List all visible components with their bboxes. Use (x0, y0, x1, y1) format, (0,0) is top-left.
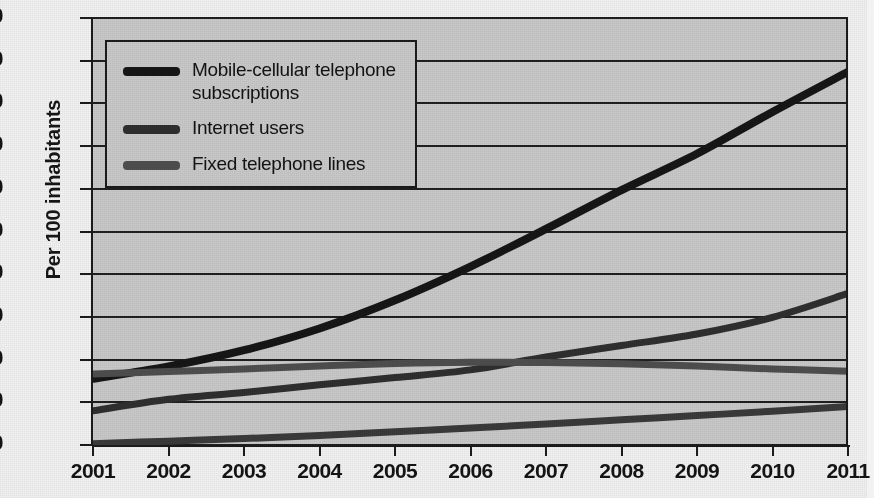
legend-item[interactable]: Internet users (123, 116, 304, 139)
y-tick-label: 60 (0, 174, 3, 200)
x-tick-mark (394, 445, 396, 456)
x-axis-line (93, 445, 850, 447)
x-tick-mark (168, 445, 170, 456)
x-tick-mark (243, 445, 245, 456)
y-tick-mark (80, 316, 93, 318)
chart-legend: Mobile-cellular telephone subscriptionsI… (105, 40, 417, 188)
y-tick-mark (80, 188, 93, 190)
y-tick-label: 80 (0, 88, 3, 114)
x-tick-mark (545, 445, 547, 456)
y-tick-mark (80, 401, 93, 403)
y-tick-label: 70 (0, 131, 3, 157)
y-tick-label: 40 (0, 259, 3, 285)
x-tick-mark (319, 445, 321, 456)
y-tick-label: 10 (0, 387, 3, 413)
legend-swatch-icon (123, 125, 180, 134)
x-tick-mark (696, 445, 698, 456)
y-axis-title: Per 100 inhabitants (42, 85, 65, 295)
legend-swatch-icon (123, 161, 180, 170)
y-tick-mark (80, 273, 93, 275)
legend-label: Internet users (192, 116, 304, 139)
x-tick-mark (621, 445, 623, 456)
x-tick-mark (772, 445, 774, 456)
y-tick-mark (80, 102, 93, 104)
y-tick-label: 100 (0, 3, 3, 29)
legend-label: Mobile-cellular telephone subscriptions (192, 58, 410, 104)
y-tick-label: 30 (0, 302, 3, 328)
y-tick-label: 50 (0, 217, 3, 243)
series-line (93, 293, 848, 410)
legend-item[interactable]: Mobile-cellular telephone subscriptions (123, 58, 410, 104)
y-tick-mark (80, 231, 93, 233)
legend-swatch-icon (123, 67, 180, 76)
y-tick-label: 90 (0, 46, 3, 72)
series-line (93, 407, 848, 444)
y-tick-label: 0 (0, 430, 3, 456)
x-tick-label: 2011 (803, 459, 874, 483)
x-tick-mark (92, 445, 94, 456)
x-tick-mark (470, 445, 472, 456)
y-tick-mark (80, 60, 93, 62)
y-tick-mark (80, 359, 93, 361)
legend-label: Fixed telephone lines (192, 152, 365, 175)
y-tick-mark (80, 17, 93, 19)
y-tick-label: 20 (0, 345, 3, 371)
x-tick-mark (847, 445, 849, 456)
y-tick-mark (80, 145, 93, 147)
legend-item[interactable]: Fixed telephone lines (123, 152, 365, 175)
